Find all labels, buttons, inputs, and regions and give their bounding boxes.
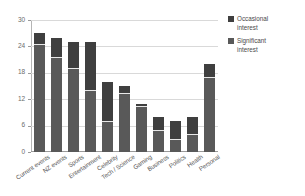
bar-group[interactable] bbox=[102, 82, 113, 152]
bar-segment-significant[interactable] bbox=[204, 77, 215, 152]
stacked-bar-chart: 0612182430 Current eventsNZ eventsSports… bbox=[0, 0, 305, 196]
bar-segment-occasional[interactable] bbox=[204, 64, 215, 77]
bar-group[interactable] bbox=[187, 117, 198, 152]
y-tick-label: 12 bbox=[0, 96, 25, 103]
bar-series-container bbox=[31, 20, 218, 152]
y-tick-label: 30 bbox=[0, 17, 25, 24]
bar-group[interactable] bbox=[85, 42, 96, 152]
bar-segment-occasional[interactable] bbox=[34, 33, 45, 44]
bar-segment-significant[interactable] bbox=[51, 57, 62, 152]
bar-segment-significant[interactable] bbox=[119, 93, 130, 152]
bar-segment-occasional[interactable] bbox=[170, 121, 181, 139]
bar-segment-significant[interactable] bbox=[68, 68, 79, 152]
bar-group[interactable] bbox=[34, 33, 45, 152]
bar-group[interactable] bbox=[153, 117, 164, 152]
bar-segment-significant[interactable] bbox=[85, 90, 96, 152]
chart-legend: Occasionalinterest Significantinterest bbox=[228, 15, 302, 59]
bar-group[interactable] bbox=[119, 86, 130, 152]
bar-segment-significant[interactable] bbox=[153, 130, 164, 152]
bar-segment-occasional[interactable] bbox=[51, 38, 62, 58]
legend-label-occasional: Occasionalinterest bbox=[237, 15, 268, 32]
legend-swatch-icon-occasional bbox=[228, 16, 234, 22]
x-axis-category-labels: Current eventsNZ eventsSportsEntertainme… bbox=[31, 153, 218, 196]
y-tick-label: 24 bbox=[0, 43, 25, 50]
bar-group[interactable] bbox=[51, 38, 62, 152]
bar-segment-significant[interactable] bbox=[136, 106, 147, 152]
bar-segment-occasional[interactable] bbox=[187, 117, 198, 135]
bar-segment-occasional[interactable] bbox=[68, 42, 79, 68]
bar-segment-occasional[interactable] bbox=[102, 82, 113, 122]
bar-group[interactable] bbox=[136, 104, 147, 152]
bar-segment-occasional[interactable] bbox=[153, 117, 164, 130]
bar-group[interactable] bbox=[170, 121, 181, 152]
bar-segment-significant[interactable] bbox=[34, 44, 45, 152]
y-tick-label: 6 bbox=[0, 122, 25, 129]
legend-item-occasional: Occasionalinterest bbox=[228, 15, 302, 32]
legend-swatch-icon-significant bbox=[228, 38, 234, 44]
bar-segment-significant[interactable] bbox=[170, 139, 181, 152]
plot-area bbox=[31, 20, 218, 152]
bar-segment-occasional[interactable] bbox=[85, 42, 96, 90]
bar-segment-significant[interactable] bbox=[187, 134, 198, 152]
bar-segment-significant[interactable] bbox=[102, 121, 113, 152]
y-tick-label: 18 bbox=[0, 69, 25, 76]
x-axis-label: Politics bbox=[167, 153, 187, 169]
bar-group[interactable] bbox=[68, 42, 79, 152]
y-tick-label: 0 bbox=[0, 149, 25, 156]
legend-item-significant: Significantinterest bbox=[228, 37, 302, 54]
legend-label-significant: Significantinterest bbox=[237, 37, 266, 54]
bar-segment-occasional[interactable] bbox=[119, 86, 130, 93]
bar-group[interactable] bbox=[204, 64, 215, 152]
